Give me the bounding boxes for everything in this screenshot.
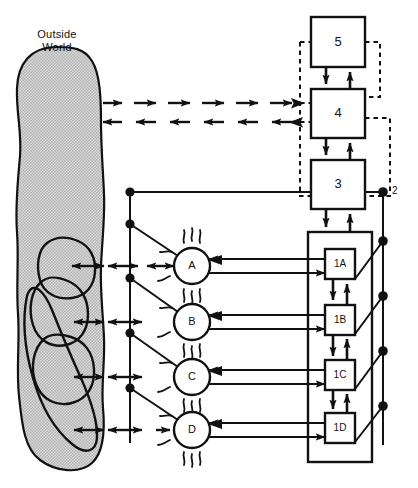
junction-dot-right-a — [378, 236, 388, 246]
junction-dot-left-b — [125, 273, 134, 282]
right-bus-diagonals — [355, 241, 383, 442]
junction-dot-left-a — [125, 219, 134, 228]
outside-world-label-line1: Outside — [18, 28, 96, 41]
outside-world-label: Outside World — [18, 28, 96, 54]
outside-world-label-line2: World — [18, 41, 96, 54]
junction-dot-left-d — [125, 383, 134, 392]
box-4-label: 4 — [311, 105, 365, 120]
junction-dot-right-b — [378, 291, 388, 301]
box-1D-label: 1D — [325, 422, 355, 433]
junction-dot-bus-2 — [378, 187, 388, 197]
unit-boxes — [325, 249, 355, 443]
node-inbound-arrowheads — [208, 255, 222, 429]
box-1B-label: 1B — [325, 314, 355, 325]
diagram-canvas: Outside World 5 4 3 2 A B C D 1A 1B 1C 1… — [0, 0, 418, 488]
box-5-label: 5 — [311, 34, 365, 49]
node-b-label: B — [174, 315, 210, 327]
junction-dot-right-d — [378, 401, 388, 411]
outside-world-to-level4-link — [103, 103, 294, 122]
bus-2-label: 2 — [392, 185, 398, 196]
node-d-label: D — [174, 423, 210, 435]
diagram-svg — [0, 0, 418, 488]
box-3-label: 3 — [311, 176, 365, 191]
unit-interconnect-arrows — [333, 279, 347, 413]
node-a-label: A — [174, 259, 210, 271]
junction-dot-right-c — [378, 346, 388, 356]
node-c-label: C — [174, 370, 210, 382]
box-1C-label: 1C — [325, 369, 355, 380]
junction-dot-left-top — [125, 187, 134, 196]
junction-dot-left-c — [125, 328, 134, 337]
box-1A-label: 1A — [325, 258, 355, 269]
